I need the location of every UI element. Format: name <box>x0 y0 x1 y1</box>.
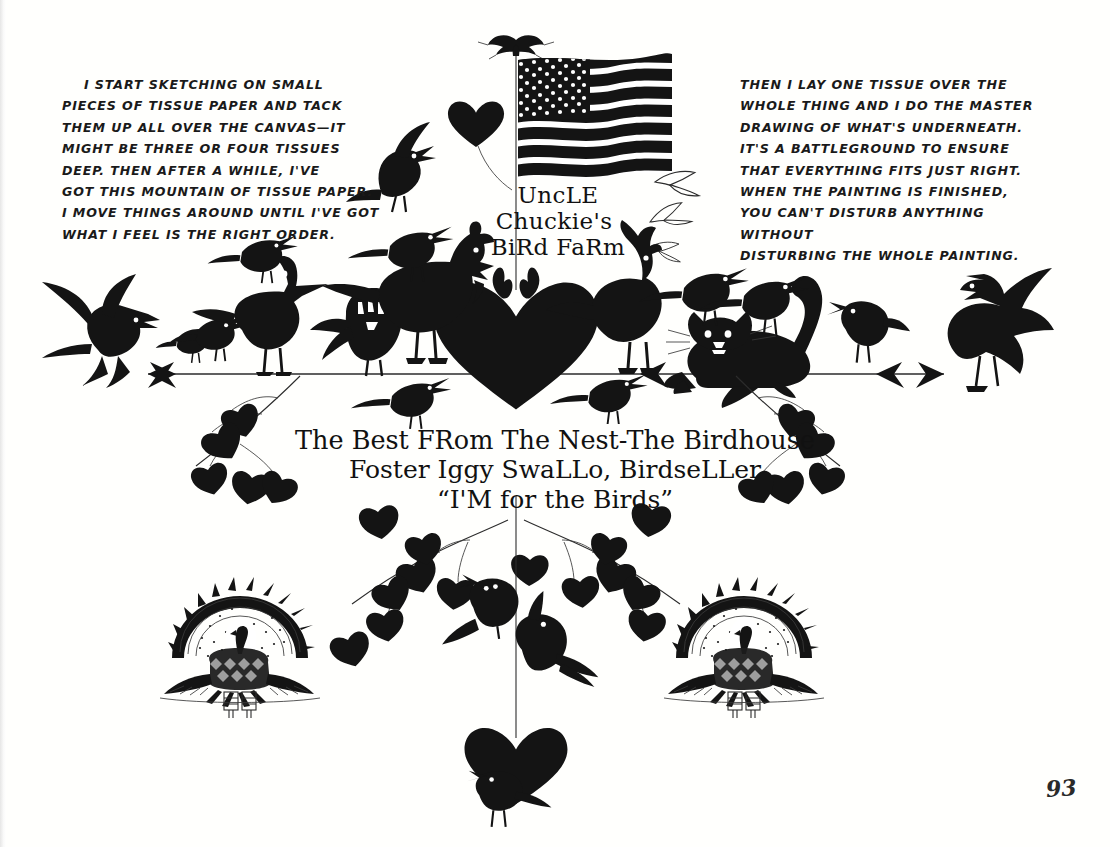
engraved-turkey-fan-right <box>664 577 824 718</box>
sign-uncle-chuckies-bird-farm: UncLE Chuckie's BiRd FaRm <box>0 182 1110 260</box>
caption-line-3: “I'M for the Birds” <box>0 485 1110 515</box>
bird-below-perch-right <box>550 374 648 424</box>
perched-bird-left <box>170 315 248 361</box>
crow-with-spread-wings-far-right <box>948 268 1054 392</box>
sign-top-line-1: UncLE <box>6 182 1110 208</box>
book-page: I START SKETCHING ON SMALL PIECES OF TIS… <box>0 0 1110 847</box>
perch-right-arrow <box>916 362 944 388</box>
caption-line-1: The Best FRom The Nest-The Birdhouse <box>0 425 1110 455</box>
small-top-heart <box>448 101 504 147</box>
flag-group <box>478 35 690 196</box>
engraved-turkey-fan-left <box>160 577 320 718</box>
sign-top-line-2: Chuckie's <box>0 208 1110 234</box>
caption-line-2: Foster Iggy SwaLLo, BirdseLLer <box>0 455 1110 485</box>
sign-birdhouse-caption: The Best FRom The Nest-The Birdhouse Fos… <box>0 425 1110 515</box>
singing-bird-right <box>827 301 910 362</box>
flying-crow-far-left <box>42 274 160 388</box>
sign-top-line-3: BiRd FaRm <box>6 234 1110 260</box>
bird-below-perch-left <box>351 378 451 429</box>
eagle-finial-icon <box>478 35 554 59</box>
flag-icon <box>510 50 690 190</box>
bird-lower-center-right <box>516 591 599 687</box>
page-number: 93 <box>1045 774 1077 802</box>
goose-duck <box>192 256 328 376</box>
